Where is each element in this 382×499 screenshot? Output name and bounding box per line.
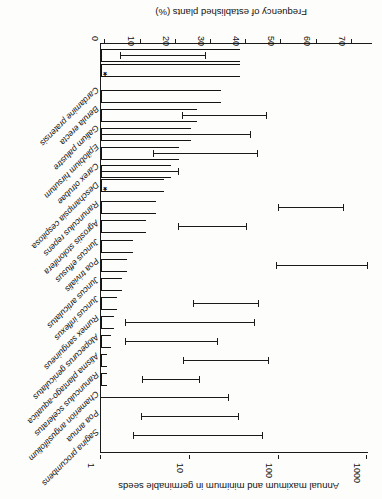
bottom-tick-70 <box>351 39 352 43</box>
bottom-tick-60 <box>316 39 317 43</box>
frequency-bar <box>101 221 146 234</box>
seedbank-min-cap <box>266 112 267 119</box>
seedbank-range-line <box>126 341 218 342</box>
frequency-bar <box>101 355 107 368</box>
seedbank-min-cap <box>258 300 259 307</box>
seedbank-min-cap <box>268 357 269 364</box>
bottom-tick-0 <box>104 39 105 43</box>
frequency-bar <box>101 336 111 349</box>
seedbank-min-cap <box>199 376 200 383</box>
top-tick-100 <box>278 455 279 459</box>
frequency-bar <box>101 148 179 161</box>
seedbank-min-cap <box>250 131 251 138</box>
frequency-bar <box>101 279 122 292</box>
top-ticklabel-1000: 1000 <box>352 463 362 483</box>
frequency-bar <box>101 260 127 273</box>
seedbank-min-cap <box>238 413 239 420</box>
seedbank-min-cap <box>217 338 218 345</box>
top-ticklabel-10: 10 <box>175 463 185 473</box>
seedbank-min-cap <box>257 150 258 157</box>
seedbank-range-line <box>154 153 258 154</box>
rotated-figure-canvas: 1000 100 10 1 Annual maximum and minimum… <box>0 0 382 499</box>
frequency-bar <box>101 241 133 254</box>
seedbank-range-line <box>183 115 267 116</box>
seedbank-max-cap <box>142 376 143 383</box>
seedbank-range-line <box>184 360 269 361</box>
top-ticklabel-100: 100 <box>264 463 274 478</box>
top-axis-line <box>100 452 368 453</box>
frequency-bar <box>101 298 117 311</box>
frequency-bar <box>101 180 164 193</box>
frequency-bar <box>101 129 191 142</box>
top-tick-1000 <box>366 455 367 459</box>
figure-page: 1000 100 10 1 Annual maximum and minimum… <box>0 0 382 499</box>
bottom-ticklabel-10: 10 <box>126 36 136 46</box>
seedbank-max-cap <box>278 204 279 211</box>
seedbank-max-cap <box>100 131 101 138</box>
seedbank-max-cap <box>276 262 277 269</box>
seedbank-max-cap <box>182 112 183 119</box>
frequency-bar <box>101 374 107 387</box>
top-ticklabel-1: 1 <box>86 463 96 468</box>
seedbank-max-cap <box>125 338 126 345</box>
top-axis-title: Annual maximum and minimum in germinable… <box>118 481 339 492</box>
seedbank-range-line <box>179 226 247 227</box>
bottom-tick-30 <box>210 39 211 43</box>
seedbank-range-line <box>101 134 251 135</box>
seedbank-max-cap <box>193 300 194 307</box>
bottom-ticklabel-30: 30 <box>196 36 206 46</box>
seedbank-max-cap <box>183 357 184 364</box>
seedbank-max-cap <box>101 168 102 175</box>
bottom-axis-title: Frequency of established plants (%) <box>155 7 307 18</box>
seedbank-min-cap <box>254 319 255 326</box>
bottom-ticklabel-50: 50 <box>266 36 276 46</box>
seedbank-range-line <box>126 322 255 323</box>
bottom-ticklabel-0: 0 <box>90 36 100 41</box>
seedbank-min-cap <box>205 52 206 59</box>
frequency-bar <box>101 317 114 330</box>
bottom-ticklabel-70: 70 <box>337 36 347 46</box>
significance-asterisk: * <box>103 183 107 190</box>
seedbank-range-line <box>102 171 179 172</box>
bottom-tick-40 <box>245 39 246 43</box>
seedbank-max-cap <box>141 413 142 420</box>
frequency-bar <box>101 50 240 63</box>
frequency-bar <box>101 166 171 179</box>
seedbank-min-cap <box>262 432 263 439</box>
seedbank-range-line <box>101 397 229 398</box>
bottom-tick-20 <box>175 39 176 43</box>
seedbank-min-cap <box>246 223 247 230</box>
seedbank-max-cap <box>120 52 121 59</box>
bottom-ticklabel-20: 20 <box>161 36 171 46</box>
bottom-tick-10 <box>140 39 141 43</box>
frequency-bar <box>101 91 221 104</box>
seedbank-min-cap <box>228 394 229 401</box>
seedbank-range-line <box>121 55 206 56</box>
seedbank-range-line <box>142 416 239 417</box>
seedbank-range-line <box>143 379 200 380</box>
bottom-ticklabel-40: 40 <box>231 36 241 46</box>
top-tick-1 <box>100 455 101 459</box>
seedbank-range-line <box>194 303 259 304</box>
seedbank-max-cap <box>153 150 154 157</box>
seedbank-range-line <box>277 265 368 266</box>
seedbank-min-cap <box>367 262 368 269</box>
seedbank-max-cap <box>133 432 134 439</box>
bottom-tick-50 <box>280 39 281 43</box>
top-tick-10 <box>189 455 190 459</box>
seedbank-min-cap <box>178 168 179 175</box>
bottom-ticklabel-60: 60 <box>302 36 312 46</box>
frequency-bar <box>101 202 156 215</box>
seedbank-range-line <box>134 435 263 436</box>
seedbank-range-line <box>279 207 344 208</box>
seedbank-min-cap <box>343 204 344 211</box>
seedbank-max-cap <box>125 319 126 326</box>
significance-asterisk: * <box>103 68 107 75</box>
frequency-bar <box>101 65 240 78</box>
seedbank-max-cap <box>178 223 179 230</box>
